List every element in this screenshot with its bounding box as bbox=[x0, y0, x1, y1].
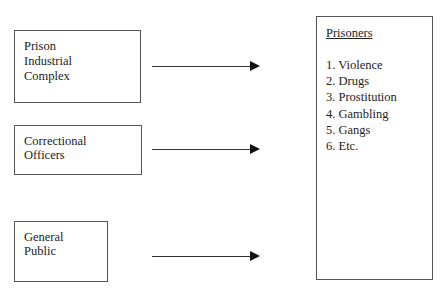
source-label: Correctional Officers bbox=[24, 134, 86, 162]
arrowhead-icon bbox=[250, 251, 260, 261]
list-item: 1. Violence bbox=[326, 57, 397, 73]
target-title: Prisoners bbox=[326, 26, 373, 41]
target-box-prisoners: Prisoners 1. Violence 2. Drugs 3. Prosti… bbox=[316, 16, 433, 280]
source-label: Prison Industrial Complex bbox=[24, 39, 72, 84]
target-list: 1. Violence 2. Drugs 3. Prostitution 4. … bbox=[326, 57, 397, 154]
list-item: 4. Gambling bbox=[326, 106, 397, 122]
source-box-correctional-officers: Correctional Officers bbox=[14, 125, 142, 175]
arrowhead-icon bbox=[250, 61, 260, 71]
arrow-3 bbox=[152, 256, 258, 257]
list-item: 2. Drugs bbox=[326, 73, 397, 89]
source-label: General Public bbox=[24, 230, 64, 258]
list-item: 3. Prostitution bbox=[326, 89, 397, 105]
source-box-prison-industrial-complex: Prison Industrial Complex bbox=[14, 30, 141, 103]
arrowhead-icon bbox=[250, 144, 260, 154]
arrow-2 bbox=[152, 149, 258, 150]
list-item: 5. Gangs bbox=[326, 122, 397, 138]
source-box-general-public: General Public bbox=[14, 221, 108, 282]
arrow-1 bbox=[152, 66, 258, 67]
list-item: 6. Etc. bbox=[326, 138, 397, 154]
